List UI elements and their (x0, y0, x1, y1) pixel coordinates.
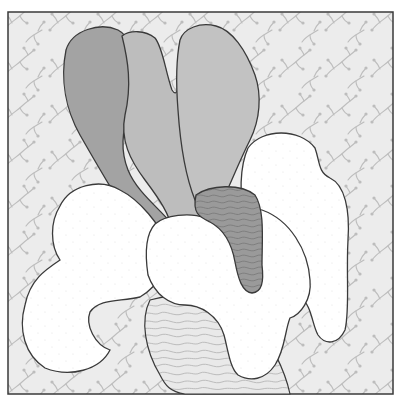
artwork-svg (0, 0, 401, 400)
artwork-canvas (0, 0, 401, 400)
